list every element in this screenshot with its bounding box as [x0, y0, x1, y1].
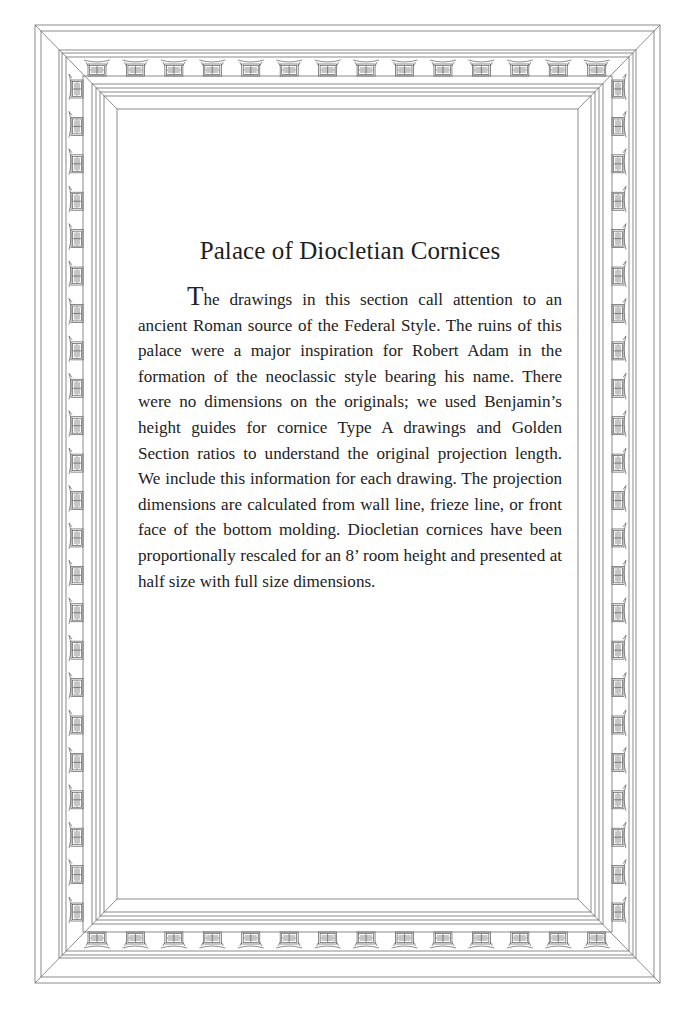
page-title: Palace of Diocletian Cornices	[138, 237, 562, 265]
page-content: Palace of Diocletian Cornices The drawin…	[138, 237, 562, 594]
paragraph-text: he drawings in this section call attenti…	[138, 290, 562, 591]
drop-cap-letter: T	[187, 281, 204, 311]
intro-paragraph: The drawings in this section call attent…	[138, 287, 562, 594]
